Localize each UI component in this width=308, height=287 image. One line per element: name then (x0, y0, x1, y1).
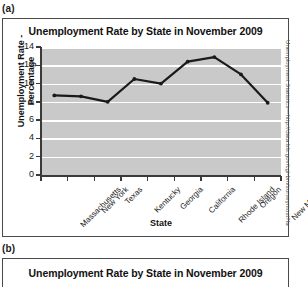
data-point (186, 60, 190, 64)
panel-label-b: (b) (2, 243, 15, 254)
y-tick-label: 2 (3, 151, 34, 161)
series-line-unemployment (41, 47, 281, 175)
y-tick-label: 0 (3, 169, 34, 179)
data-point (212, 55, 216, 59)
x-tick-label: California (207, 185, 237, 215)
x-tick (227, 176, 229, 181)
figure-panel-b: Unemployment Rate by State in November 2… (2, 258, 289, 287)
x-tick (147, 176, 149, 181)
x-tick (200, 176, 202, 181)
x-tick (40, 176, 42, 181)
y-tick (36, 119, 41, 121)
y-tick (36, 83, 41, 85)
data-point (132, 77, 136, 81)
data-point (106, 100, 110, 104)
panel-label-a: (a) (2, 3, 15, 14)
x-tick (67, 176, 69, 181)
y-tick (36, 101, 41, 103)
x-tick (94, 176, 96, 181)
y-tick-label: 10 (3, 78, 34, 88)
y-tick-label: 6 (3, 114, 34, 124)
chart-title-b: Unemployment Rate by State in November 2… (3, 267, 288, 279)
y-tick-label: 4 (3, 132, 34, 142)
x-tick (174, 176, 176, 181)
chart-title: Unemployment Rate by State in November 2… (3, 25, 288, 37)
data-point (79, 94, 83, 98)
x-axis-title: State (41, 218, 281, 228)
x-axis-line (40, 175, 281, 177)
y-tick (36, 138, 41, 140)
data-point (239, 73, 243, 77)
data-point (266, 101, 270, 105)
y-tick (36, 156, 41, 158)
x-tick-label: Kentucky (153, 185, 183, 215)
y-tick-label: 8 (3, 96, 34, 106)
source-credit: Unemployment Statistics—http://data.bls.… (285, 40, 291, 287)
x-tick-label: Georgia (178, 185, 204, 211)
x-tick (280, 176, 282, 181)
x-tick (254, 176, 256, 181)
figure-panel-a: Unemployment Rate by State in November 2… (2, 18, 289, 237)
data-point (159, 82, 163, 86)
y-tick (36, 46, 41, 48)
data-point (52, 94, 56, 98)
y-tick (36, 65, 41, 67)
y-tick-label: 14 (3, 41, 34, 51)
y-tick-label: 12 (3, 59, 34, 69)
x-tick-label: New Mexico (289, 185, 308, 222)
x-tick (120, 176, 122, 181)
